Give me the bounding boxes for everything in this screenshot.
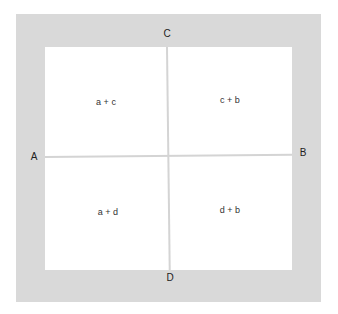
cell-label-top-left: a + c: [96, 97, 116, 107]
cell-label-bottom-left: a + d: [98, 207, 118, 217]
edge-label-right: B: [300, 148, 307, 158]
edge-label-left: A: [31, 152, 38, 162]
cell-label-bottom-right: d + b: [220, 205, 240, 215]
edge-label-bottom: D: [166, 273, 173, 283]
edge-label-top: C: [163, 29, 170, 39]
cell-label-top-right: c + b: [220, 95, 240, 105]
